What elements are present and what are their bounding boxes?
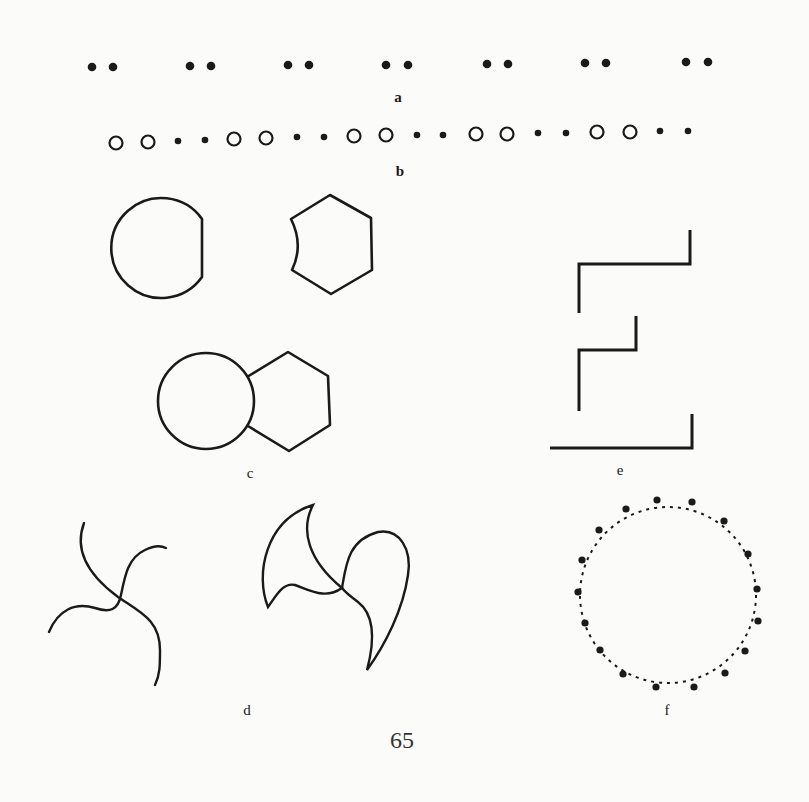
- dot: [685, 128, 692, 135]
- embedded-figure-left-lobe: [263, 505, 342, 607]
- dot: [574, 588, 581, 595]
- open-circle: [260, 132, 273, 145]
- dot: [563, 130, 570, 137]
- overlap-hexagon: [247, 352, 330, 451]
- dot: [175, 138, 182, 145]
- open-circle: [228, 133, 241, 146]
- overlap-circle: [158, 353, 254, 449]
- figure-c-shapes: [111, 195, 372, 451]
- dot: [202, 137, 209, 144]
- dot: [652, 683, 659, 690]
- dot: [284, 61, 293, 70]
- figure-d-curves: [49, 505, 409, 685]
- page-number: 65: [390, 727, 414, 754]
- dot: [596, 646, 603, 653]
- dot: [186, 62, 195, 71]
- dot: [504, 60, 513, 69]
- label-e: e: [617, 462, 624, 479]
- dot: [581, 619, 588, 626]
- figure-b-circles-and-dots: [110, 126, 692, 150]
- dashed-circle: [580, 507, 756, 683]
- dot: [404, 61, 413, 70]
- label-b: b: [396, 163, 404, 180]
- bracket-middle: [579, 316, 636, 411]
- open-circle: [380, 129, 393, 142]
- truncated-circle: [111, 198, 202, 298]
- dot: [207, 62, 216, 71]
- dot: [720, 517, 727, 524]
- open-circle: [591, 126, 604, 139]
- open-circle: [348, 130, 361, 143]
- bracket-upper: [579, 230, 690, 313]
- embedded-figure-right-lobe: [342, 532, 409, 670]
- dot: [294, 134, 301, 141]
- label-d: d: [243, 702, 251, 719]
- open-circle: [142, 136, 155, 149]
- dot: [657, 128, 664, 135]
- dot: [305, 61, 314, 70]
- dot: [109, 63, 118, 72]
- dot: [619, 670, 626, 677]
- figure-f-dotted-circle: [574, 496, 761, 690]
- dot: [682, 58, 691, 67]
- dot: [414, 132, 421, 139]
- bracket-bottom: [550, 414, 692, 448]
- dot: [744, 550, 751, 557]
- dot: [595, 526, 602, 533]
- dot: [578, 556, 585, 563]
- dot: [653, 496, 660, 503]
- open-circle: [110, 137, 123, 150]
- dot: [535, 130, 542, 137]
- open-circle: [470, 128, 483, 141]
- open-circle: [501, 128, 514, 141]
- dot: [440, 132, 447, 139]
- dot: [754, 617, 761, 624]
- dot: [690, 683, 697, 690]
- dot: [483, 60, 492, 69]
- dot: [741, 647, 748, 654]
- dot: [622, 505, 629, 512]
- open-circle: [624, 126, 637, 139]
- dot: [688, 498, 695, 505]
- label-f: f: [665, 702, 670, 719]
- dot: [721, 669, 728, 676]
- dot: [382, 61, 391, 70]
- dot: [602, 59, 611, 68]
- dot: [321, 134, 328, 141]
- figure-e-brackets: [550, 230, 692, 448]
- label-a: a: [394, 89, 402, 106]
- notched-hexagon: [291, 195, 372, 294]
- dot: [704, 58, 713, 67]
- figure-canvas: [0, 0, 809, 802]
- label-c: c: [247, 465, 254, 482]
- dot: [753, 585, 760, 592]
- dot: [88, 63, 97, 72]
- dot: [581, 59, 590, 68]
- figure-a-dot-pairs: [88, 58, 713, 72]
